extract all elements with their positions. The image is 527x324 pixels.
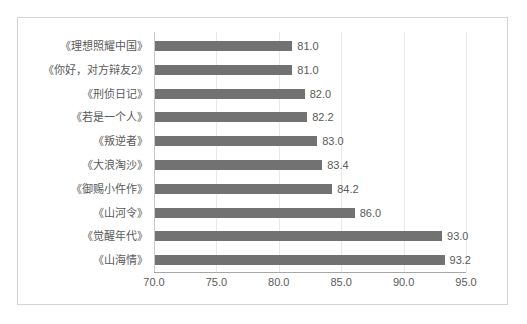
bar-row: 《大浪淘沙》83.4: [18, 153, 507, 177]
bar: [155, 184, 332, 194]
bar: [155, 136, 317, 146]
bar-value-label: 86.0: [360, 201, 381, 225]
bar-value-label: 84.2: [337, 177, 358, 201]
x-tick-label: 85.0: [321, 276, 361, 288]
bar-row: 《山河令》86.0: [18, 201, 507, 225]
bar: [155, 231, 442, 241]
category-label: 《御赐小仵作》: [18, 177, 148, 201]
bar-value-label: 81.0: [297, 58, 318, 82]
category-label: 《你好，对方辩友2》: [18, 58, 148, 82]
bar-row: 《御赐小仵作》84.2: [18, 177, 507, 201]
category-label: 《刑侦日记》: [18, 82, 148, 106]
category-label: 《大浪淘沙》: [18, 153, 148, 177]
category-label: 《叛逆者》: [18, 129, 148, 153]
bar-row: 《若是一个人》82.2: [18, 105, 507, 129]
bar: [155, 160, 322, 170]
bar: [155, 112, 307, 122]
bar-value-label: 83.4: [327, 153, 348, 177]
bar-row: 《理想照耀中国》81.0: [18, 34, 507, 58]
bar: [155, 65, 292, 75]
bar-value-label: 83.0: [322, 129, 343, 153]
bar-row: 《你好，对方辩友2》81.0: [18, 58, 507, 82]
bar: [155, 41, 292, 51]
bar: [155, 255, 445, 265]
bar-value-label: 93.2: [450, 248, 471, 272]
x-tick-label: 95.0: [446, 276, 486, 288]
category-label: 《若是一个人》: [18, 105, 148, 129]
bar-value-label: 81.0: [297, 34, 318, 58]
plot-area: 《理想照耀中国》81.0《你好，对方辩友2》81.0《刑侦日记》82.0《若是一…: [18, 18, 507, 304]
bar-value-label: 82.2: [312, 105, 333, 129]
x-tick-label: 80.0: [259, 276, 299, 288]
category-label: 《觉醒年代》: [18, 224, 148, 248]
chart-frame: 《理想照耀中国》81.0《你好，对方辩友2》81.0《刑侦日记》82.0《若是一…: [17, 17, 508, 305]
bar-row: 《叛逆者》83.0: [18, 129, 507, 153]
category-label: 《山河令》: [18, 201, 148, 225]
x-tick-label: 75.0: [196, 276, 236, 288]
bar-row: 《刑侦日记》82.0: [18, 82, 507, 106]
category-label: 《山海情》: [18, 248, 148, 272]
x-tick-label: 70.0: [134, 276, 174, 288]
bar: [155, 208, 355, 218]
category-label: 《理想照耀中国》: [18, 34, 148, 58]
bar: [155, 89, 305, 99]
bar-row: 《山海情》93.2: [18, 248, 507, 272]
x-tick-label: 90.0: [384, 276, 424, 288]
bar-row: 《觉醒年代》93.0: [18, 224, 507, 248]
bar-value-label: 93.0: [447, 224, 468, 248]
bar-value-label: 82.0: [310, 82, 331, 106]
